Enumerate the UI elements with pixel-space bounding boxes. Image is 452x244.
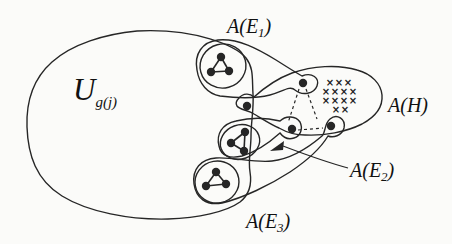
- ae3-label: A(E3): [244, 210, 291, 235]
- ae2-label: A(E2): [348, 159, 395, 184]
- attachment-dot-e2: [288, 125, 296, 133]
- x-mark-cluster: ×××××××××××××: [322, 77, 357, 115]
- triangle-node-dot: [202, 182, 210, 190]
- set-ah-outline: [236, 66, 382, 135]
- triangle-graphs: [202, 53, 249, 190]
- triangle-node-dot: [225, 67, 233, 75]
- hypergraph-diagram: ××××××××××××× Ug(j) A(E1) A(H) A(E2) A(E…: [0, 0, 452, 244]
- triangle-node-dot: [240, 147, 248, 155]
- ah-label: A(H): [386, 94, 428, 117]
- triangle-node-dot: [217, 53, 225, 61]
- dashed-hyperedge-lines: [288, 89, 323, 130]
- set-ae1-outline: [196, 40, 317, 98]
- triangle-node-dot: [227, 139, 235, 147]
- x-mark: ×: [349, 95, 357, 106]
- figure-canvas: ××××××××××××× Ug(j) A(E1) A(H) A(E2) A(E…: [0, 0, 452, 244]
- triangle-node-dot: [212, 168, 220, 176]
- ae2-leader-line: [283, 146, 348, 168]
- ae1-label: A(E1): [225, 15, 272, 40]
- triangle-node-dot: [207, 68, 215, 76]
- attachment-dot-e1: [299, 79, 307, 87]
- ae2-arrowhead-icon: [270, 141, 284, 151]
- x-mark: ×: [341, 104, 349, 115]
- triangle-node-dot: [241, 128, 249, 136]
- x-mark: ×: [332, 104, 340, 115]
- x-mark: ×: [322, 95, 330, 106]
- attachment-dot-single: [243, 102, 251, 110]
- universe-label: Ug(j): [73, 72, 117, 111]
- triangle-node-dot: [222, 180, 230, 188]
- attachment-dot-e3: [327, 122, 335, 130]
